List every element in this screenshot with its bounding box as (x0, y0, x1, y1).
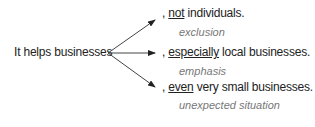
arrow-icon (108, 53, 155, 87)
label-unexpected-situation: unexpected situation (179, 99, 280, 111)
label-emphasis: emphasis (179, 65, 226, 77)
arrow-icon (108, 20, 155, 53)
branch-not: , not individuals. (162, 6, 244, 20)
branch-especially: , especially local businesses. (162, 45, 310, 59)
label-exclusion: exclusion (179, 26, 225, 38)
keyword-especially: especially (168, 45, 219, 59)
branch-even: , even very small businesses. (162, 80, 313, 94)
keyword-even: even (168, 80, 193, 94)
keyword-not: not (168, 6, 184, 20)
